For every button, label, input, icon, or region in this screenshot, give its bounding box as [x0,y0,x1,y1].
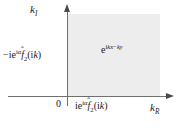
interior-exponential-label: eikx−ky [101,45,123,55]
k-plane-figure: kI kR 0 −ieiαˆf2(ik) ieiαˆf2(ik) eikx−ky [0,0,177,128]
origin-label: 0 [56,99,61,109]
bottom-term-f-hat: ˆf [88,101,91,111]
shaded-first-quadrant-region [68,14,160,97]
real-axis-arrow-icon [166,93,174,99]
bottom-boundary-term-label: ieiαˆf2(ik) [75,101,108,111]
imaginary-axis-label-subscript: I [35,10,37,18]
left-boundary-term-label: −ieiαˆf2(ik) [3,50,41,60]
left-term-hat-accent: ˆ [21,46,24,55]
real-axis-label-subscript: R [155,108,159,116]
imaginary-axis-arrow-icon [64,4,70,12]
imaginary-axis-line [67,10,68,106]
bottom-term-hat-accent: ˆ [87,97,90,106]
interior-term-exp-y: y [120,43,123,50]
imaginary-axis-label: kI [30,4,37,15]
bottom-term-close-paren: ) [104,100,107,111]
left-term-f-hat: ˆf [21,50,24,60]
real-axis-label: kR [150,102,159,113]
left-term-close-paren: ) [38,49,41,60]
interior-term-exponent: ikx−ky [105,43,122,50]
